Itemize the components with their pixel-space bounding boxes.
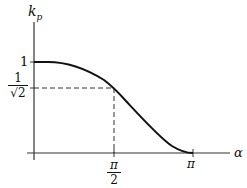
y-tick-label-inv-sqrt2: 1 √2 bbox=[8, 72, 28, 99]
x-tick-label-pi-half: π 2 bbox=[107, 159, 121, 186]
x-tick-label-pi: π bbox=[187, 158, 195, 170]
y-axis-label: kp bbox=[28, 4, 42, 22]
x-axis-label: α bbox=[234, 146, 243, 159]
chart: kp 1 1 √2 π 2 π α bbox=[0, 0, 247, 188]
y-tick-label-1: 1 bbox=[20, 55, 28, 68]
plot-area bbox=[0, 0, 247, 188]
